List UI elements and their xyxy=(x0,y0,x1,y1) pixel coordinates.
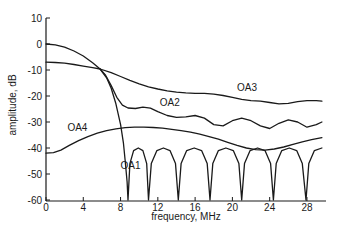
x-tick-label: 20 xyxy=(227,202,239,213)
y-ticks: 100-10-20-30-40-50-60 xyxy=(28,13,50,206)
x-tick-label: 4 xyxy=(80,202,86,213)
y-tick-label: -50 xyxy=(28,169,43,180)
frequency-response-chart: 100-10-20-30-40-50-60 0481216202428 OA1O… xyxy=(0,0,339,233)
x-tick-label: 0 xyxy=(43,202,49,213)
y-tick-label: -60 xyxy=(28,195,43,206)
x-tick-label: 28 xyxy=(301,202,313,213)
x-tick-label: 24 xyxy=(264,202,276,213)
series-label-oa2: OA2 xyxy=(160,97,180,108)
series-label-oa4: OA4 xyxy=(67,122,87,133)
series-label-oa3: OA3 xyxy=(237,82,257,93)
x-tick-label: 8 xyxy=(118,202,124,213)
y-tick-label: 10 xyxy=(31,13,43,24)
x-axis-title: frequency, MHz xyxy=(151,211,220,222)
chart-axes xyxy=(46,18,326,201)
series-labels: OA1OA2OA3OA4 xyxy=(67,82,257,171)
y-tick-label: -10 xyxy=(28,65,43,76)
series-oa3 xyxy=(46,62,322,104)
y-tick-label: -40 xyxy=(28,143,43,154)
y-tick-label: -20 xyxy=(28,91,43,102)
y-axis-title: amplitude, dB xyxy=(7,74,18,135)
y-tick-label: 0 xyxy=(36,39,42,50)
y-tick-label: -30 xyxy=(28,117,43,128)
series-oa2 xyxy=(100,69,322,129)
series-label-oa1: OA1 xyxy=(121,160,141,171)
